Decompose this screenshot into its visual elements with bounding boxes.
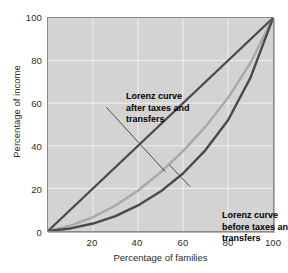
annotation-before-line1: Lorenz curve: [222, 210, 288, 222]
x-tick-40: 40: [123, 238, 151, 247]
x-tick-20: 20: [78, 238, 106, 247]
y-tick-40: 40: [18, 142, 42, 151]
y-tick-100: 100: [18, 13, 42, 22]
annotation-after-line1: Lorenz curve: [126, 91, 190, 103]
y-tick-0: 0: [18, 228, 42, 237]
annotation-after-taxes: Lorenz curve after taxes and transfers: [126, 91, 190, 126]
lorenz-curve-figure: 100 80 60 40 20 0 20 40 60 80 100 Percen…: [0, 0, 288, 273]
annotation-after-line3: transfers: [126, 114, 190, 126]
annotation-before-line2: before taxes and: [222, 222, 288, 234]
annotation-after-line2: after taxes and: [126, 103, 190, 115]
y-tick-20: 20: [18, 185, 42, 194]
y-tick-60: 60: [18, 99, 42, 108]
x-axis-label: Percentage of families: [47, 252, 274, 263]
y-tick-80: 80: [18, 56, 42, 65]
annotation-before-line3: transfers: [222, 233, 288, 245]
plot-area: Lorenz curve after taxes and transfers L…: [47, 17, 274, 232]
y-axis-label: Percentage of income: [11, 52, 22, 172]
x-tick-60: 60: [169, 238, 197, 247]
annotation-before-taxes: Lorenz curve before taxes and transfers: [222, 210, 288, 245]
